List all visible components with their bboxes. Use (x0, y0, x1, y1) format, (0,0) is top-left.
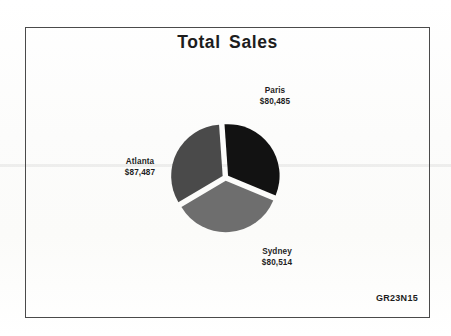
pie-label-atlanta: Atlanta $87,487 (104, 157, 176, 178)
pie-label-atlanta-value: $87,487 (104, 168, 176, 179)
pie-label-paris: Paris $80,485 (246, 86, 304, 107)
pie-label-atlanta-name: Atlanta (104, 157, 176, 168)
pie-chart (160, 106, 306, 256)
chart-page: Total Sales Paris $80,485 Atlanta $87,48… (0, 0, 451, 336)
pie-label-sydney-name: Sydney (244, 247, 310, 258)
pie-label-sydney: Sydney $80,514 (244, 247, 310, 268)
pie-label-paris-value: $80,485 (246, 97, 304, 108)
pie-chart-svg (160, 106, 306, 256)
pie-label-sydney-value: $80,514 (244, 258, 310, 269)
figure-reference-code: GR23N15 (340, 293, 418, 303)
page-title: Total Sales (25, 32, 430, 53)
pie-label-paris-name: Paris (246, 86, 304, 97)
